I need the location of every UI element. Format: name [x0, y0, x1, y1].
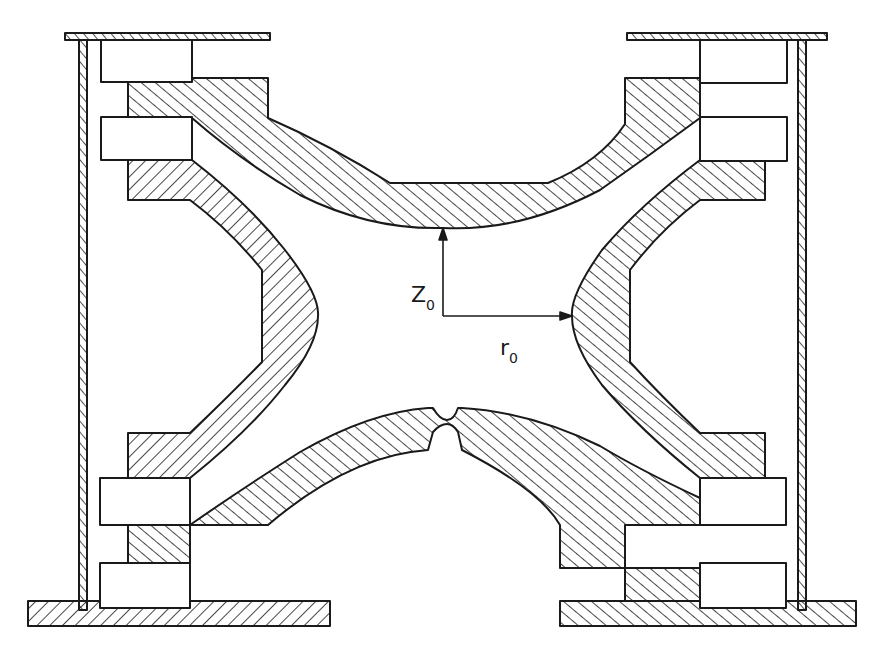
z0-dimension-arrow: [439, 228, 447, 316]
side-wall-left: [79, 40, 87, 610]
spacer-left-3: [100, 478, 190, 525]
label-z0-main: Z: [411, 282, 426, 307]
side-wall-right: [798, 40, 806, 610]
top-plate-right: [627, 33, 827, 40]
label-r0-main: r: [500, 335, 509, 360]
spacers-right: [700, 40, 787, 608]
spacer-left-1: [101, 40, 192, 82]
label-z0-sub: 0: [426, 297, 435, 313]
ring-electrode-right: [572, 160, 765, 478]
spacer-right-2: [700, 117, 787, 161]
spacer-right-3: [700, 478, 786, 525]
spacers-left: [100, 40, 192, 608]
spacer-left-4: [100, 563, 190, 608]
label-r0: r0: [500, 335, 518, 363]
spacer-right-4: [700, 563, 786, 608]
spacer-left-2: [101, 117, 192, 160]
label-z0: Z0: [411, 282, 435, 310]
r0-dimension-arrow: [443, 312, 572, 320]
paul-trap-diagram: [0, 0, 879, 655]
top-plate-left: [65, 33, 270, 40]
ring-electrode-left: [128, 160, 318, 478]
spacer-right-1: [700, 40, 787, 83]
label-r0-sub: 0: [509, 350, 518, 366]
